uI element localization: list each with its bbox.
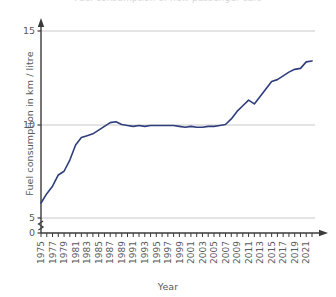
line-chart-plot: 051015 197519771979198119831985198719891… bbox=[0, 0, 336, 297]
x-tick-label-2003: 2003 bbox=[198, 241, 208, 264]
x-tick-label-1981: 1981 bbox=[71, 241, 81, 264]
x-tick-label-1987: 1987 bbox=[105, 241, 115, 264]
x-tick-label-2021: 2021 bbox=[301, 241, 311, 264]
x-tick-label-1975: 1975 bbox=[36, 241, 46, 264]
x-tick-label-1995: 1995 bbox=[152, 241, 162, 264]
x-tick-label-1977: 1977 bbox=[48, 241, 58, 264]
x-tick-label-1979: 1979 bbox=[59, 241, 69, 264]
x-tick-label-2017: 2017 bbox=[278, 241, 288, 264]
y-axis-arrow bbox=[38, 18, 44, 27]
x-tick-labels: 1975197719791981198319851987198919911993… bbox=[36, 241, 311, 264]
y-tick-label-0: 0 bbox=[29, 227, 35, 238]
y-tick-label-15: 15 bbox=[23, 25, 35, 36]
x-axis bbox=[41, 230, 328, 237]
x-tick-label-2007: 2007 bbox=[221, 241, 231, 264]
x-axis-title: Year bbox=[0, 281, 336, 292]
x-tick-label-1993: 1993 bbox=[140, 241, 150, 264]
gridlines bbox=[41, 31, 315, 218]
x-axis-arrow bbox=[319, 230, 328, 236]
x-tick-label-2009: 2009 bbox=[232, 241, 242, 264]
x-tick-label-2011: 2011 bbox=[244, 241, 254, 264]
x-tick-label-1997: 1997 bbox=[163, 241, 173, 264]
data-series bbox=[41, 61, 312, 203]
x-tick-label-1983: 1983 bbox=[82, 241, 92, 264]
series-line-fuel-consumption bbox=[41, 61, 312, 203]
x-tick-label-2001: 2001 bbox=[186, 241, 196, 264]
x-tick-label-1989: 1989 bbox=[117, 241, 127, 264]
x-tick-label-2005: 2005 bbox=[209, 241, 219, 264]
y-axis-title: Fuel consumption in km / litre bbox=[24, 39, 35, 209]
x-tick-label-1985: 1985 bbox=[94, 241, 104, 264]
chart-container: Fuel consumption of new passenger cars 0… bbox=[0, 0, 336, 297]
x-tick-label-2015: 2015 bbox=[267, 241, 277, 264]
x-tick-label-1999: 1999 bbox=[175, 241, 185, 264]
x-tick-label-2013: 2013 bbox=[255, 241, 265, 264]
y-tick-label-5: 5 bbox=[29, 212, 35, 223]
x-tick-label-2019: 2019 bbox=[290, 241, 300, 264]
y-axis-break-marker bbox=[38, 221, 43, 230]
x-tick-label-1991: 1991 bbox=[128, 241, 138, 264]
